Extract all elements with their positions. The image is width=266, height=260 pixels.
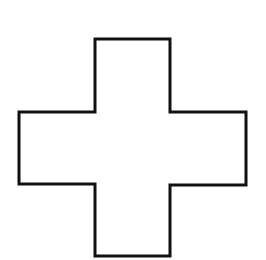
cross-shape-svg: [0, 0, 266, 260]
